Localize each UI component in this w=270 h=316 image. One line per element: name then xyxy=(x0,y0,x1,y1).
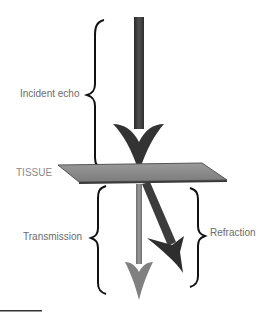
transmission-arrowhead xyxy=(125,262,153,300)
tissue-plane xyxy=(58,163,227,182)
tissue-label: TISSUE xyxy=(16,167,52,178)
transmission-label: Transmission xyxy=(23,231,82,242)
incident-brace xyxy=(87,20,104,170)
transmission-arrow-shaft xyxy=(136,184,142,264)
transmission-brace xyxy=(91,186,106,294)
baseline-rule xyxy=(0,310,42,312)
refraction-arrow-shaft xyxy=(142,182,176,246)
refraction-arrowhead xyxy=(147,236,184,273)
incident-echo-label: Incident echo xyxy=(20,88,80,99)
ultrasound-echo-diagram xyxy=(0,0,270,316)
refraction-label: Refraction xyxy=(210,227,256,238)
incident-arrow-shaft xyxy=(134,17,144,129)
refraction-brace xyxy=(190,188,205,287)
